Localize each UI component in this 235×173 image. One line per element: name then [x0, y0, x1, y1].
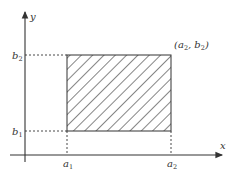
- tick-label-b1: b1: [12, 126, 23, 139]
- hatched-region: [67, 55, 171, 131]
- y-axis-label: y: [29, 11, 36, 22]
- tick-label-b2: b2: [12, 50, 23, 63]
- tick-label-a1: a1: [63, 158, 73, 171]
- tick-label-a2: a2: [167, 158, 177, 171]
- x-axis-label: x: [220, 140, 226, 151]
- corner-label-a2-b2: (a2, b2): [174, 39, 209, 52]
- region-diagram: y x b2 b1 a1 a2 (a2, b2): [0, 0, 235, 173]
